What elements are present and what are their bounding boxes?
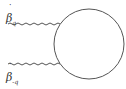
dot-accent: ˙ [8, 63, 13, 72]
bottom-wavy-line [8, 63, 60, 65]
dot-accent: ˙ [8, 4, 13, 13]
label-beta-dot-q: ˙ βq [6, 9, 16, 26]
feynman-diagram [0, 0, 126, 89]
loop-circle [54, 9, 124, 79]
subscript: q [12, 19, 16, 26]
label-beta-dot-minus-q: ˙ β-q [6, 68, 18, 85]
subscript: -q [12, 78, 18, 85]
